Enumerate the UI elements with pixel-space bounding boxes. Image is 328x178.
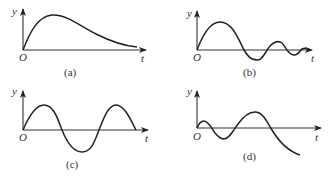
origin-label: O bbox=[193, 130, 201, 142]
curve-a bbox=[23, 15, 137, 50]
x-label: t bbox=[145, 132, 149, 144]
caption-d: (d) bbox=[243, 150, 256, 163]
x-label: t bbox=[141, 52, 145, 64]
panel-c: y O t (c) bbox=[11, 85, 149, 171]
y-label: y bbox=[186, 85, 192, 97]
y-label: y bbox=[11, 5, 17, 17]
y-label: y bbox=[11, 85, 17, 97]
caption-c: (c) bbox=[66, 158, 79, 171]
x-label: t bbox=[311, 52, 315, 64]
origin-label: O bbox=[193, 51, 201, 63]
origin-label: O bbox=[19, 51, 27, 63]
curve-c bbox=[23, 105, 136, 152]
panel-a: y O t (a) bbox=[11, 5, 146, 79]
caption-b: (b) bbox=[243, 66, 256, 79]
panel-b: y O t (b) bbox=[186, 7, 315, 79]
caption-a: (a) bbox=[64, 66, 77, 79]
panel-d: y O t (d) bbox=[186, 85, 321, 163]
x-label: t bbox=[315, 131, 319, 143]
curve-d bbox=[197, 112, 300, 155]
y-label: y bbox=[186, 7, 192, 19]
origin-label: O bbox=[19, 131, 27, 143]
curve-b bbox=[197, 22, 309, 60]
figure-canvas: y O t (a) y O t (b) y O t (c) y O t (d) bbox=[0, 0, 328, 178]
